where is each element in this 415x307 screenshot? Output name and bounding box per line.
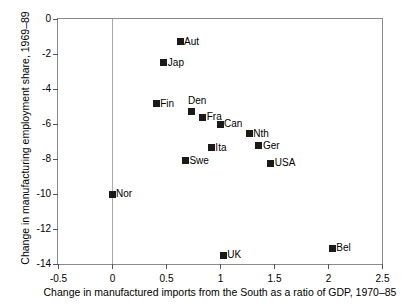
data-point-marker xyxy=(177,38,184,45)
y-axis-tick: -4 xyxy=(53,89,58,90)
y-axis-tick: -12 xyxy=(53,229,58,230)
data-point-marker xyxy=(329,245,336,252)
x-axis-tick: 2 xyxy=(328,264,329,269)
y-axis-tick: -2 xyxy=(53,54,58,55)
data-point-marker xyxy=(217,121,224,128)
x-axis-tick-label: 2 xyxy=(326,272,332,285)
x-axis-tick: -0.5 xyxy=(58,264,59,269)
data-point-label: Bel xyxy=(336,242,350,253)
data-point-marker xyxy=(160,59,167,66)
data-point-label: Jap xyxy=(168,57,184,68)
data-point-label: Ita xyxy=(215,142,226,153)
data-point-label: UK xyxy=(227,249,241,260)
data-point-marker xyxy=(199,114,206,121)
y-axis-tick: -6 xyxy=(53,124,58,125)
plot-area: 0-2-4-6-8-10-12-14-0.500.511.522.5AutJap… xyxy=(57,18,383,265)
x-axis-tick-label: -0.5 xyxy=(50,272,67,285)
data-point-label: Can xyxy=(224,118,242,129)
y-axis-tick-label: -4 xyxy=(42,82,51,95)
x-axis-tick: 1.5 xyxy=(274,264,275,269)
y-axis-title: Change in manufacturing employment share… xyxy=(16,8,34,268)
x-axis-tick: 0 xyxy=(112,264,113,269)
data-point-marker xyxy=(188,108,195,115)
zero-reference-line xyxy=(112,19,113,264)
x-axis-tick-label: 0.5 xyxy=(160,272,174,285)
y-axis-tick-label: -8 xyxy=(42,152,51,165)
data-point-marker xyxy=(182,157,189,164)
y-axis-tick: 0 xyxy=(53,19,58,20)
data-point-marker xyxy=(153,100,160,107)
x-axis-tick-label: 1 xyxy=(218,272,224,285)
data-point-marker xyxy=(255,142,262,149)
y-axis-tick-label: -12 xyxy=(37,222,51,235)
x-axis-title: Change in manufactured imports from the … xyxy=(40,286,400,298)
data-point-label: Den xyxy=(188,95,206,106)
data-point-marker xyxy=(267,160,274,167)
data-point-label: Fin xyxy=(160,98,174,109)
data-point-label: Nth xyxy=(253,128,269,139)
y-axis-tick-label: 0 xyxy=(45,12,51,25)
x-axis-tick: 1 xyxy=(220,264,221,269)
x-axis-tick: 2.5 xyxy=(382,264,383,269)
y-axis-tick: -8 xyxy=(53,159,58,160)
y-axis-tick-label: -14 xyxy=(37,257,51,270)
data-point-marker xyxy=(208,144,215,151)
y-axis-tick-label: -6 xyxy=(42,117,51,130)
data-point-label: USA xyxy=(275,157,296,168)
data-point-label: Ger xyxy=(263,140,280,151)
data-point-label: Nor xyxy=(116,188,132,199)
x-axis-tick-label: 1.5 xyxy=(268,272,282,285)
x-axis-tick-label: 0 xyxy=(110,272,116,285)
data-point-marker xyxy=(109,191,116,198)
x-axis-tick: 0.5 xyxy=(166,264,167,269)
data-point-marker xyxy=(246,130,253,137)
scatter-plot-figure: Change in manufacturing employment share… xyxy=(0,0,415,307)
data-point-label: Aut xyxy=(184,36,199,47)
x-axis-tick-label: 2.5 xyxy=(376,272,390,285)
data-point-marker xyxy=(220,252,227,259)
y-axis-tick: -10 xyxy=(53,194,58,195)
y-axis-tick-label: -10 xyxy=(37,187,51,200)
y-axis-tick-label: -2 xyxy=(42,47,51,60)
data-point-label: Swe xyxy=(189,155,208,166)
